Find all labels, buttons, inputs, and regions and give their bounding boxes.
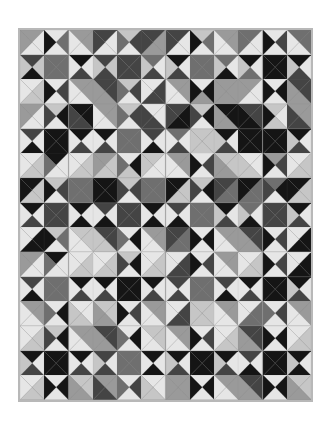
quilt-block [166, 351, 190, 376]
quilt-block [141, 203, 165, 228]
quilt-block [238, 178, 262, 203]
quilt-block [166, 227, 190, 252]
quilt-block [214, 351, 238, 376]
quilt-block [93, 129, 117, 154]
quilt-block [93, 252, 117, 277]
quilt-block [263, 351, 287, 376]
quilt-block [214, 326, 238, 351]
quilt-block [166, 55, 190, 80]
quilt-block [166, 203, 190, 228]
quilt-block [287, 203, 311, 228]
quilt-block [69, 326, 93, 351]
quilt-block [117, 104, 141, 129]
quilt-block [166, 252, 190, 277]
quilt-block [190, 351, 214, 376]
quilt-block [263, 375, 287, 400]
quilt-block [44, 55, 68, 80]
quilt-block [263, 203, 287, 228]
quilt-block [20, 252, 44, 277]
quilt-block [214, 252, 238, 277]
quilt-block [190, 326, 214, 351]
quilt-block [166, 326, 190, 351]
quilt-block [214, 277, 238, 302]
quilt-block [69, 252, 93, 277]
quilt-block [190, 79, 214, 104]
quilt-block [190, 252, 214, 277]
quilt-block [117, 55, 141, 80]
quilt-block [44, 277, 68, 302]
quilt-block [214, 104, 238, 129]
quilt-block [238, 227, 262, 252]
quilt-grid [20, 30, 311, 400]
quilt-block [44, 129, 68, 154]
quilt-block [141, 153, 165, 178]
quilt-block [263, 178, 287, 203]
quilt-block [44, 375, 68, 400]
quilt-block [69, 30, 93, 55]
quilt-block [214, 30, 238, 55]
quilt-block [214, 227, 238, 252]
quilt-block [44, 252, 68, 277]
quilt-block [117, 252, 141, 277]
quilt-block [20, 301, 44, 326]
quilt-block [166, 30, 190, 55]
quilt-block [238, 252, 262, 277]
quilt-block [69, 104, 93, 129]
quilt-block [44, 178, 68, 203]
quilt-block [238, 129, 262, 154]
quilt-block [20, 30, 44, 55]
quilt-block [141, 227, 165, 252]
quilt-block [69, 351, 93, 376]
quilt-block [238, 277, 262, 302]
quilt-block [238, 79, 262, 104]
quilt-block [69, 301, 93, 326]
quilt-block [287, 351, 311, 376]
quilt-block [263, 227, 287, 252]
quilt-block [117, 227, 141, 252]
quilt-block [93, 227, 117, 252]
quilt-block [69, 153, 93, 178]
quilt-block [44, 79, 68, 104]
quilt-block [263, 153, 287, 178]
quilt-block [93, 30, 117, 55]
quilt-block [263, 277, 287, 302]
quilt-block [20, 129, 44, 154]
quilt-block [20, 227, 44, 252]
quilt-block [238, 104, 262, 129]
quilt-block [214, 203, 238, 228]
quilt-block [20, 277, 44, 302]
quilt-block [166, 79, 190, 104]
quilt-block [263, 79, 287, 104]
quilt-block [69, 277, 93, 302]
quilt-block [141, 301, 165, 326]
quilt-block [238, 326, 262, 351]
quilt-block [214, 55, 238, 80]
quilt-block [20, 203, 44, 228]
quilt-block [141, 55, 165, 80]
quilt-block [93, 203, 117, 228]
quilt-block [238, 30, 262, 55]
quilt-block [69, 79, 93, 104]
quilt-block [93, 326, 117, 351]
quilt-block [93, 55, 117, 80]
quilt-block [287, 326, 311, 351]
quilt-block [287, 55, 311, 80]
quilt-block [214, 153, 238, 178]
quilt-block [117, 153, 141, 178]
quilt-block [263, 326, 287, 351]
quilt-block [20, 351, 44, 376]
quilt-block [20, 104, 44, 129]
quilt-block [44, 351, 68, 376]
quilt-block [69, 375, 93, 400]
quilt-block [190, 104, 214, 129]
quilt-block [214, 178, 238, 203]
quilt-block [93, 153, 117, 178]
quilt-block [141, 277, 165, 302]
quilt-block [287, 277, 311, 302]
quilt-block [93, 277, 117, 302]
quilt-block [166, 375, 190, 400]
quilt-block [238, 375, 262, 400]
quilt-block [214, 129, 238, 154]
quilt-block [69, 55, 93, 80]
quilt-block [117, 301, 141, 326]
